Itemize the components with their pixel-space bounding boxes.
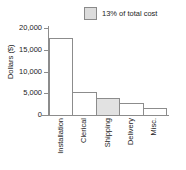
- y-tick-label-5000: 5,000: [23, 89, 42, 97]
- x-label-cell: Delivery: [119, 116, 142, 170]
- x-label-cell: Clerical: [72, 116, 95, 170]
- x-tick-label-misc: Misc.: [151, 118, 159, 136]
- bar-installation: [49, 38, 73, 115]
- legend-swatch-icon: [84, 7, 97, 20]
- bar-clerical: [72, 92, 96, 115]
- y-tick-label-20000: 20,000: [19, 24, 42, 32]
- x-tick-label-shipping: Shipping: [104, 118, 112, 147]
- x-tick-label-clerical: Clerical: [80, 118, 88, 143]
- bar-chart: 13% of total cost Dollars ($) 20,000 15,…: [0, 0, 186, 170]
- x-label-cell: Shipping: [96, 116, 119, 170]
- x-tick-label-delivery: Delivery: [127, 118, 135, 145]
- y-axis-labels: 20,000 15,000 10,000 5,000 0: [0, 26, 42, 116]
- x-label-cell: Misc.: [143, 116, 166, 170]
- legend-label: 13% of total cost: [102, 10, 157, 18]
- y-tick-label-10000: 10,000: [19, 68, 42, 76]
- x-tick-label-installation: Installation: [57, 118, 65, 154]
- bar-shipping: [96, 98, 120, 115]
- x-axis-labels: Installation Clerical Shipping Delivery …: [49, 116, 166, 170]
- y-tick-label-15000: 15,000: [19, 46, 42, 54]
- chart-legend: 13% of total cost: [84, 7, 157, 20]
- bar-delivery: [119, 103, 143, 115]
- bar-series: [49, 28, 166, 115]
- bar-misc: [143, 108, 167, 115]
- x-label-cell: Installation: [49, 116, 72, 170]
